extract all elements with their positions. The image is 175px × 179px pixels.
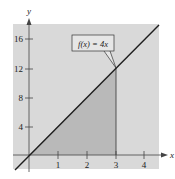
x-tick-label: 2 bbox=[85, 160, 90, 170]
x-axis-arrow-icon bbox=[161, 153, 168, 158]
x-tick-label: 4 bbox=[142, 160, 147, 170]
chart: 1 2 3 4 4 8 12 16 x y f(x) = 4x bbox=[0, 0, 175, 179]
function-label: f(x) = 4x bbox=[78, 39, 108, 49]
y-axis-arrow-icon bbox=[27, 18, 32, 25]
x-tick-label: 3 bbox=[114, 160, 119, 170]
y-tick-label: 16 bbox=[14, 34, 24, 44]
y-axis-label: y bbox=[26, 6, 31, 16]
y-tick-label: 4 bbox=[19, 122, 24, 132]
x-tick-label: 1 bbox=[56, 160, 61, 170]
y-tick-label: 12 bbox=[14, 64, 23, 74]
x-axis-label: x bbox=[169, 150, 174, 160]
y-tick-label: 8 bbox=[19, 93, 24, 103]
